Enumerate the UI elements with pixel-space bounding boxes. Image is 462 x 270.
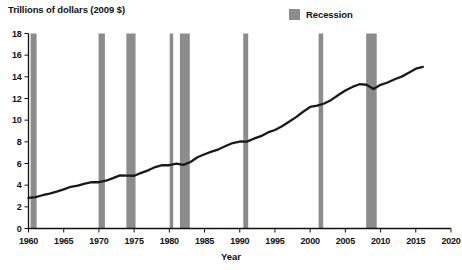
plot-area: 0246810121416181960196519701975198019851… — [0, 0, 462, 270]
y-tick-label: 16 — [12, 50, 22, 60]
x-tick-label: 1970 — [89, 236, 108, 246]
y-tick-label: 2 — [17, 202, 22, 212]
recession-band — [126, 34, 135, 229]
y-tick-label: 4 — [17, 180, 22, 190]
recession-band — [243, 34, 248, 229]
x-tick-label: 1960 — [19, 236, 38, 246]
x-tick-label: 2020 — [441, 236, 460, 246]
x-tick-label: 2015 — [406, 236, 425, 246]
y-tick-label: 0 — [17, 224, 22, 234]
y-tick-label: 14 — [12, 72, 22, 82]
x-axis-title: Year — [0, 251, 462, 262]
x-tick-label: 1995 — [265, 236, 284, 246]
y-tick-label: 8 — [17, 137, 22, 147]
gdp-recession-chart: Trillions of dollars (2009 $) Recession … — [0, 0, 462, 270]
x-tick-label: 2010 — [371, 236, 390, 246]
x-tick-label: 1975 — [125, 236, 144, 246]
recession-band — [99, 34, 105, 229]
recession-band — [366, 34, 377, 229]
recession-band — [319, 34, 324, 229]
x-tick-label: 2005 — [336, 236, 355, 246]
y-tick-label: 12 — [12, 94, 22, 104]
x-tick-label: 2000 — [301, 236, 320, 246]
recession-band — [180, 34, 190, 229]
y-tick-label: 10 — [12, 115, 22, 125]
recession-band — [170, 34, 174, 229]
y-tick-label: 6 — [17, 159, 22, 169]
x-tick-label: 1985 — [195, 236, 214, 246]
data-line-real-gdp — [29, 67, 423, 198]
y-tick-label: 18 — [12, 29, 22, 39]
x-tick-label: 1990 — [230, 236, 249, 246]
x-tick-label: 1965 — [54, 236, 73, 246]
recession-band — [31, 34, 37, 229]
x-tick-label: 1980 — [160, 236, 179, 246]
